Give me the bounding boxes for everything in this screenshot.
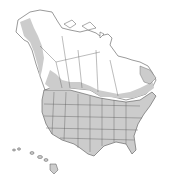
- contiguous-us-range: [42, 90, 156, 156]
- range-map: North America range map: [0, 0, 173, 183]
- hawaii-range: [13, 148, 59, 174]
- north-america-map: [0, 0, 173, 183]
